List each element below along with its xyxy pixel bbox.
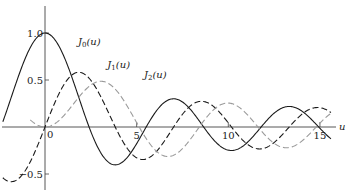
- curve-j0u: [3, 33, 331, 165]
- series-label: J2(u): [142, 69, 167, 82]
- series-labels: J0(u)J1(u)J2(u): [76, 36, 167, 82]
- axes: [2, 6, 336, 190]
- ticks: 0510151.00.5−0.5: [19, 28, 327, 180]
- series-label: J1(u): [105, 59, 130, 72]
- y-tick-label: 1.0: [27, 28, 43, 39]
- x-tick-label: 15: [314, 130, 327, 141]
- x-tick-label: 10: [222, 130, 235, 141]
- curve-j2u: [30, 81, 331, 156]
- x-tick-label: 0: [47, 129, 53, 140]
- y-tick-label: 0.5: [27, 75, 43, 86]
- series-label: J0(u): [76, 36, 101, 49]
- bessel-function-chart: 0510151.00.5−0.5 J0(u)J1(u)J2(u) u: [0, 0, 356, 196]
- curves: [3, 33, 331, 182]
- x-axis-label: u: [339, 121, 345, 132]
